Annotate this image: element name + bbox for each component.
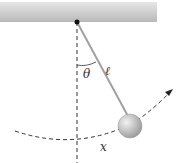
swing-arc [15,92,170,140]
length-label: ℓ [105,64,110,79]
pendulum-bob [118,114,142,138]
pendulum-diagram [0,0,183,163]
angle-arc [77,62,96,66]
angle-label: θ [83,67,90,81]
arc-length-label: x [100,140,107,154]
pivot-point [75,20,80,25]
arc-arrowhead [165,89,173,96]
ceiling [0,2,157,22]
